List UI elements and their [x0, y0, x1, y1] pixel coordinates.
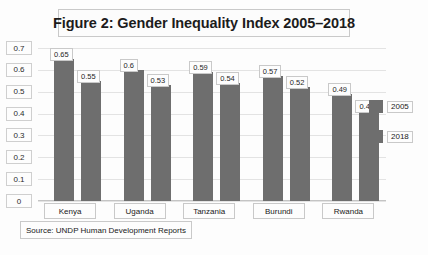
chart-title: Figure 2: Gender Inequality Index 2005–2…: [53, 15, 355, 31]
bar-2005[interactable]: [124, 70, 144, 201]
gridline: [38, 201, 386, 202]
bar-value-label: 0.54: [216, 72, 239, 85]
y-axis-tick: 0.5: [6, 85, 32, 99]
legend-item-2018[interactable]: 2018: [369, 130, 425, 143]
y-axis-tick: 0.2: [6, 150, 32, 164]
legend-item-2005[interactable]: 2005: [369, 100, 425, 113]
legend-label: 2018: [387, 131, 413, 143]
bar-value-label: 0.49: [328, 83, 351, 96]
y-axis-tick: 0.7: [6, 41, 32, 55]
source-note: Source: UNDP Human Development Reports: [20, 221, 192, 239]
chart-legend: 20052018: [369, 100, 425, 160]
y-axis: 0.70.60.50.40.30.20.10: [6, 48, 36, 201]
bar-2005[interactable]: [332, 94, 352, 201]
y-axis-tick: 0.3: [6, 128, 32, 142]
category-label-uganda: Uganda: [114, 203, 166, 219]
chart-title-box: Figure 2: Gender Inequality Index 2005–2…: [58, 9, 350, 37]
y-axis-tick: 0.4: [6, 107, 32, 121]
legend-label: 2005: [387, 101, 413, 113]
category-label-kenya: Kenya: [44, 203, 96, 219]
bar-2005[interactable]: [54, 59, 74, 201]
bar-value-label: 0.57: [259, 65, 282, 78]
bar-value-label: 0.6: [120, 59, 138, 72]
y-axis-tick: 0.6: [6, 63, 32, 77]
bar-value-label: 0.53: [147, 74, 170, 87]
gender-inequality-chart: Figure 2: Gender Inequality Index 2005–2…: [0, 0, 428, 255]
bar-value-label: 0.52: [286, 76, 309, 89]
legend-swatch-icon: [369, 100, 383, 113]
bar-2018[interactable]: [290, 87, 310, 201]
bar-group: 0.60.53: [118, 48, 177, 201]
bar-group: 0.590.54: [187, 48, 246, 201]
bar-group: 0.570.52: [257, 48, 316, 201]
bar-group: 0.650.55: [48, 48, 107, 201]
bar-2018[interactable]: [81, 81, 101, 201]
y-axis-tick: 0: [6, 194, 32, 208]
category-label-burundi: Burundi: [253, 203, 305, 219]
bar-value-label: 0.65: [50, 48, 73, 61]
bar-2005[interactable]: [263, 76, 283, 201]
category-label-tanzania: Tanzania: [183, 203, 235, 219]
category-axis: KenyaUgandaTanzaniaBurundiRwanda: [38, 203, 386, 219]
legend-swatch-icon: [369, 130, 383, 143]
bar-2018[interactable]: [220, 83, 240, 201]
plot-area: 0.650.550.60.530.590.540.570.520.490.41: [38, 48, 386, 201]
y-axis-tick: 0.1: [6, 172, 32, 186]
bar-value-label: 0.55: [77, 70, 100, 83]
bar-2018[interactable]: [151, 85, 171, 201]
bar-value-label: 0.59: [189, 61, 212, 74]
bar-2005[interactable]: [193, 72, 213, 201]
category-label-rwanda: Rwanda: [322, 203, 374, 219]
